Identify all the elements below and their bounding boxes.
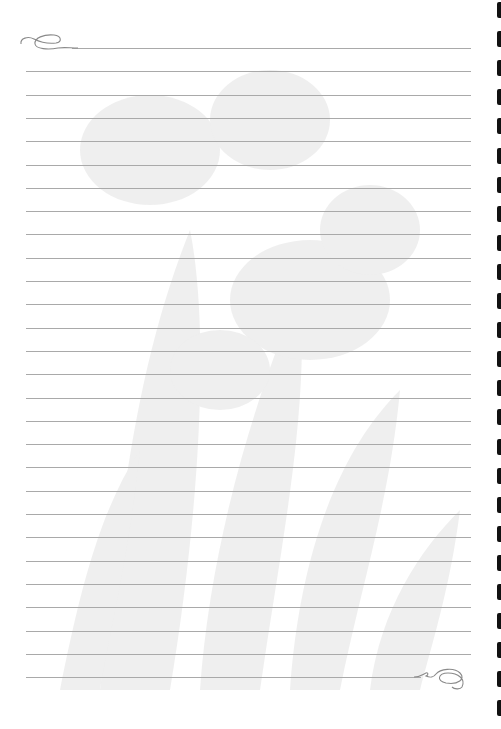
ruled-line [26, 304, 471, 305]
ruled-line [26, 467, 471, 468]
cropped-glyph [497, 351, 501, 367]
ruled-line [26, 374, 471, 375]
cropped-glyph [497, 118, 501, 134]
cropped-glyph [497, 235, 501, 251]
ruled-line [26, 234, 471, 235]
cropped-glyph [497, 177, 501, 193]
cropped-glyph [497, 148, 501, 164]
cropped-glyph [497, 2, 501, 18]
cropped-glyph [497, 526, 501, 542]
lined-paper-page [0, 0, 497, 729]
ruled-line [26, 631, 471, 632]
ruled-line [26, 188, 471, 189]
cropped-glyph [497, 31, 501, 47]
cropped-text-edge [496, 0, 501, 729]
ruled-line [26, 584, 471, 585]
ruled-line [26, 351, 471, 352]
cropped-glyph [497, 322, 501, 338]
ruled-line [26, 537, 471, 538]
ruled-line [26, 258, 471, 259]
ruled-line [26, 71, 471, 72]
ruled-line [26, 165, 471, 166]
cropped-glyph [497, 613, 501, 629]
ruled-line [26, 561, 471, 562]
ruled-line [26, 141, 471, 142]
cropped-glyph [497, 206, 501, 222]
cropped-glyph [497, 700, 501, 716]
top-left-swirl-icon [18, 32, 78, 54]
bottom-right-swirl-icon [414, 665, 470, 691]
ruled-line [26, 444, 471, 445]
ruled-line [26, 281, 471, 282]
cropped-glyph [497, 293, 501, 309]
ruled-line [26, 607, 471, 608]
cropped-glyph [497, 468, 501, 484]
cropped-glyph [497, 439, 501, 455]
ruled-line [26, 95, 471, 96]
cropped-glyph [497, 642, 501, 658]
cropped-glyph [497, 264, 501, 280]
cropped-glyph [497, 380, 501, 396]
cropped-glyph [497, 89, 501, 105]
ruled-line [26, 491, 471, 492]
cropped-glyph [497, 584, 501, 600]
ruled-line [26, 421, 471, 422]
ruled-line [26, 677, 421, 678]
iris-flower-watermark [40, 30, 480, 710]
ruled-line [72, 48, 471, 49]
ruled-line [26, 211, 471, 212]
ruled-line [26, 654, 471, 655]
cropped-glyph [497, 60, 501, 76]
cropped-glyph [497, 497, 501, 513]
ruled-line [26, 398, 471, 399]
cropped-glyph [497, 555, 501, 571]
ruled-line [26, 514, 471, 515]
ruled-line [26, 118, 471, 119]
cropped-glyph [497, 409, 501, 425]
ruled-line [26, 328, 471, 329]
cropped-glyph [497, 671, 501, 687]
